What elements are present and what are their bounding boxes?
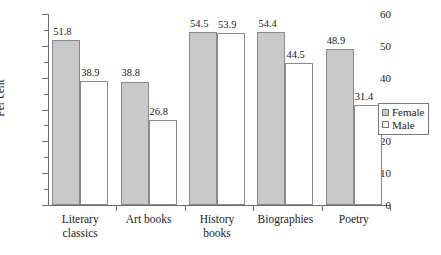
x-tick (322, 206, 323, 211)
bar-value-label: 54.4 (258, 18, 276, 29)
category-label-4: Poetry (339, 212, 369, 226)
x-tick (253, 206, 254, 211)
x-tick (390, 206, 391, 211)
bar-female-2[interactable] (189, 32, 217, 205)
y-tick-major (42, 205, 48, 206)
legend-label-male: Male (392, 119, 415, 132)
bar-value-label: 44.5 (286, 49, 304, 60)
bar-female-1[interactable] (121, 82, 149, 206)
plot-area: 51.838.938.826.854.553.954.444.548.931.4 (48, 14, 390, 205)
bar-value-label: 51.8 (53, 26, 71, 37)
bar-male-1[interactable] (149, 120, 177, 205)
bar-value-label: 38.8 (122, 67, 140, 78)
legend-item-female[interactable]: Female (382, 106, 424, 119)
bar-male-0[interactable] (80, 81, 108, 205)
bar-female-0[interactable] (52, 40, 80, 205)
category-label-3: Biographies (258, 212, 314, 226)
x-axis-line (48, 205, 390, 206)
x-tick (185, 206, 186, 211)
bar-value-label: 48.9 (327, 35, 345, 46)
bar-value-label: 31.4 (355, 91, 373, 102)
bar-chart: Per cent 6050403020100 51.838.938.826.85… (0, 0, 441, 255)
legend-label-female: Female (392, 106, 424, 119)
bar-value-label: 54.5 (190, 18, 208, 29)
bar-value-label: 53.9 (218, 19, 236, 30)
legend-swatch-female-icon (382, 109, 389, 116)
bar-value-label: 26.8 (150, 106, 168, 117)
y-axis-title: Per cent (0, 79, 6, 116)
chart-legend: Female Male (378, 103, 429, 135)
x-tick (116, 206, 117, 211)
bar-female-4[interactable] (326, 49, 354, 205)
category-label-0: Literary classics (62, 212, 99, 241)
legend-swatch-male-icon (382, 121, 389, 128)
bar-male-3[interactable] (285, 63, 313, 205)
legend-item-male[interactable]: Male (382, 119, 424, 132)
bar-male-2[interactable] (217, 33, 245, 205)
bar-value-label: 38.9 (81, 67, 99, 78)
category-label-2: History books (200, 212, 235, 241)
bar-female-3[interactable] (257, 32, 285, 205)
category-label-1: Art books (126, 212, 172, 226)
